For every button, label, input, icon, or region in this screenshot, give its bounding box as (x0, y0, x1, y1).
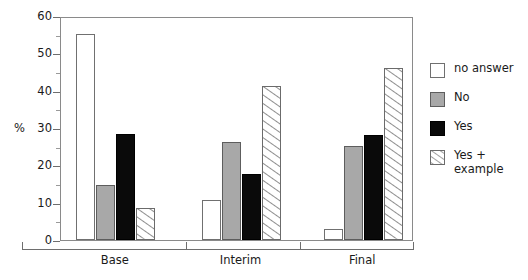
bar-base-yes (116, 134, 135, 240)
bar-base-yes-example (136, 208, 155, 240)
chart-legend: no answerNoYesYes + example (428, 62, 528, 182)
x-axis-line (22, 249, 413, 250)
x-axis-group-label-interim: Interim (196, 254, 286, 267)
bar-final-yes-example (384, 68, 403, 240)
chart-container: 0102030405060 % BaseInterimFinal no answ… (0, 0, 528, 280)
y-axis-title: % (14, 122, 25, 134)
y-axis-tick-mark (53, 204, 60, 205)
x-axis-separator-tick (186, 242, 187, 250)
x-axis-group-label-base: Base (70, 254, 160, 267)
y-axis-tick-label: 0 (26, 235, 52, 247)
bar-final-no-answer (324, 229, 343, 240)
y-axis-tick-mark (53, 129, 60, 130)
bar-interim-yes-example (262, 86, 281, 240)
legend-label: Yes + example (454, 149, 504, 176)
legend-label: Yes (454, 120, 473, 134)
legend-item[interactable]: no answer (428, 62, 528, 88)
bar-interim-no (222, 142, 241, 240)
y-axis-tick-mark (53, 17, 60, 18)
x-axis-separator-tick (22, 242, 23, 250)
hatched-swatch (430, 150, 445, 165)
bar-interim-yes (242, 174, 261, 240)
x-axis-separator-tick (300, 242, 301, 250)
y-axis-tick-label: 20 (26, 160, 52, 172)
bar-interim-no-answer (202, 200, 221, 240)
x-axis-separator-tick (413, 242, 414, 250)
y-axis-tick-mark (53, 241, 60, 242)
bar-final-no (344, 146, 363, 240)
hatch-fill (263, 87, 280, 239)
y-axis-tick-mark (53, 54, 60, 55)
legend-item[interactable]: Yes (428, 120, 528, 146)
x-axis-group-label-final: Final (317, 254, 407, 267)
plot-area (60, 17, 413, 241)
legend-label: No (454, 91, 470, 105)
bar-base-no-answer (76, 34, 95, 240)
y-axis-tick-label: 40 (26, 86, 52, 98)
bar-final-yes (364, 135, 383, 240)
y-axis-tick-mark (53, 92, 60, 93)
black-swatch (430, 121, 445, 136)
y-axis-tick-mark (53, 166, 60, 167)
y-axis-tick-labels: 0102030405060 (18, 0, 52, 280)
bar-base-no (96, 185, 115, 240)
legend-item[interactable]: Yes + example (428, 149, 528, 179)
hatch-fill (137, 209, 154, 239)
legend-item[interactable]: No (428, 91, 528, 117)
white-swatch (430, 63, 445, 78)
y-axis-tick-label: 30 (26, 123, 52, 135)
y-axis-tick-label: 60 (26, 11, 52, 23)
legend-label: no answer (454, 62, 514, 76)
y-axis-tick-label: 10 (26, 198, 52, 210)
gray-swatch (430, 92, 445, 107)
hatch-fill (385, 69, 402, 239)
y-axis-tick-label: 50 (26, 48, 52, 60)
